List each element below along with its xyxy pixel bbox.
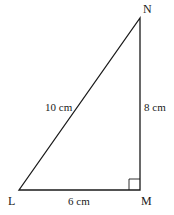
side-label-lm: 6 cm [68,195,90,207]
vertex-label-m: M [141,194,152,208]
vertex-label-n: N [143,2,152,16]
triangle-diagram: N L M 10 cm 8 cm 6 cm [0,0,174,215]
right-angle-marker [129,179,140,190]
side-label-nm: 8 cm [144,101,166,113]
triangle-lmn [19,18,140,190]
vertex-label-l: L [8,194,15,208]
side-label-ln: 10 cm [45,101,73,113]
